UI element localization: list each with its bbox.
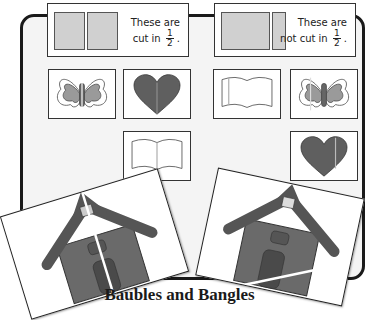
header-card-not-cut-in-half: These are not cut in 12 . (214, 3, 356, 57)
tile-heart-not-half (290, 131, 358, 181)
butterfly-icon (49, 70, 115, 118)
heart-icon (291, 132, 357, 180)
fraction-one-half: 12 (333, 29, 341, 48)
fraction-one-half: 12 (166, 29, 174, 48)
butterfly-icon (291, 70, 357, 118)
tile-butterfly-not-half (290, 69, 358, 119)
poster-title: Baubles and Bangles (0, 285, 359, 305)
large-part-swatch (221, 12, 270, 50)
book-icon (214, 70, 280, 118)
tile-book-not-half (213, 69, 281, 119)
heart-icon (124, 70, 190, 118)
label-line2: not cut in (280, 33, 328, 44)
header-card-cut-in-half: These are cut in 12 . (47, 3, 189, 57)
not-cut-in-half-label: These are not cut in 12 . (280, 17, 347, 48)
label-line2: cut in (133, 33, 161, 44)
cut-in-half-label: These are cut in 12 . (131, 17, 180, 48)
half-swatch-right (87, 12, 118, 50)
tile-butterfly-half (48, 69, 116, 119)
tile-heart-half (123, 69, 191, 119)
half-swatch-left (54, 12, 85, 50)
